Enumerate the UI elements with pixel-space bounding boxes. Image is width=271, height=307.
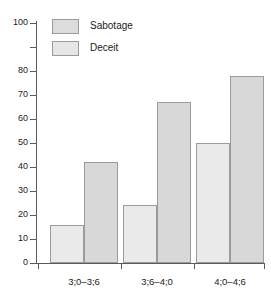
y-axis-label-wrap: 10 <box>0 234 28 243</box>
y-axis-label: 30 <box>0 186 28 195</box>
y-axis-tick <box>30 71 36 72</box>
legend-swatch-sabotage <box>52 19 79 34</box>
x-axis-line <box>36 263 265 264</box>
x-axis-tick <box>38 263 39 269</box>
y-axis-label-wrap: 50 <box>0 138 28 147</box>
y-axis-tick <box>30 239 36 240</box>
legend-label-deceit: Deceit <box>90 42 118 54</box>
x-axis-tick <box>121 263 122 269</box>
y-axis-label: 10 <box>0 234 28 243</box>
y-axis-tick <box>30 143 36 144</box>
y-axis-tick <box>30 215 36 216</box>
y-axis-label: 50 <box>0 138 28 147</box>
legend-swatch-deceit <box>52 41 79 56</box>
x-axis-tick <box>264 263 265 269</box>
bar-sabotage-1 <box>123 205 157 263</box>
y-axis-label-wrap: 0 <box>0 258 28 267</box>
y-axis-label-wrap: 100 <box>0 18 28 27</box>
bar-sabotage-2 <box>196 143 230 263</box>
y-axis-label: 80 <box>0 66 28 75</box>
y-axis-label: 60 <box>0 114 28 123</box>
bar-sabotage-0 <box>50 225 84 263</box>
bar-deceit-1 <box>157 102 191 263</box>
bar-deceit-0 <box>84 162 118 263</box>
y-axis-label-wrap: 40 <box>0 162 28 171</box>
y-axis-label-wrap: 30 <box>0 186 28 195</box>
y-axis-tick <box>30 23 36 24</box>
x-axis-tick <box>194 263 195 269</box>
x-axis-label: 4;0–4;6 <box>185 276 271 287</box>
bar-chart: 01020304050607080100 3;0–3;63;6–4;04;0–4… <box>0 0 271 307</box>
y-axis-label-wrap: 20 <box>0 210 28 219</box>
y-axis-tick <box>30 263 36 264</box>
y-axis-label: 100 <box>0 18 28 27</box>
bar-deceit-2 <box>230 76 264 263</box>
y-axis-label: 0 <box>0 258 28 267</box>
y-axis-tick <box>30 95 36 96</box>
y-axis-tick <box>30 47 36 48</box>
y-axis-label: 40 <box>0 162 28 171</box>
y-axis-label-wrap: 70 <box>0 90 28 99</box>
y-axis-label-wrap: 80 <box>0 66 28 75</box>
y-axis-label-wrap: 60 <box>0 114 28 123</box>
y-axis-label: 20 <box>0 210 28 219</box>
y-axis-tick <box>30 191 36 192</box>
y-axis-label: 70 <box>0 90 28 99</box>
y-axis-tick <box>30 119 36 120</box>
legend-label-sabotage: Sabotage <box>90 20 133 32</box>
y-axis-line <box>36 21 37 264</box>
y-axis-tick <box>30 167 36 168</box>
